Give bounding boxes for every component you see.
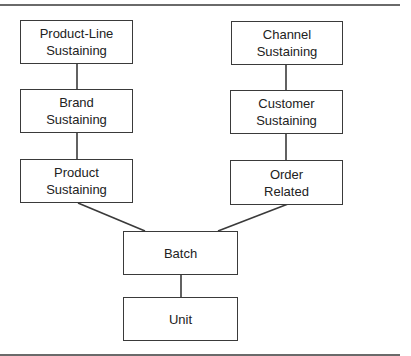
- node-product-line-sustaining: Product-Line Sustaining: [20, 20, 133, 64]
- node-label-line2: Sustaining: [46, 111, 107, 128]
- node-label-line2: Related: [264, 183, 309, 200]
- node-label-line2: Sustaining: [46, 42, 107, 59]
- node-label-line2: Sustaining: [256, 112, 317, 129]
- node-customer-sustaining: Customer Sustaining: [230, 90, 343, 134]
- edge-order-batch: [218, 204, 288, 231]
- node-channel-sustaining: Channel Sustaining: [231, 21, 343, 65]
- node-label-line1: Channel: [263, 26, 311, 43]
- node-product-sustaining: Product Sustaining: [20, 159, 133, 203]
- node-label: Batch: [164, 245, 197, 262]
- node-unit: Unit: [123, 297, 238, 341]
- node-label-line1: Brand: [59, 94, 94, 111]
- node-batch: Batch: [123, 231, 238, 275]
- node-label-line1: Product-Line: [40, 25, 114, 42]
- node-label-line1: Product: [54, 164, 99, 181]
- node-label-line1: Customer: [258, 95, 314, 112]
- node-brand-sustaining: Brand Sustaining: [20, 89, 133, 133]
- edge-product-batch: [78, 203, 145, 231]
- node-label-line1: Order: [270, 166, 303, 183]
- node-order-related: Order Related: [230, 160, 343, 205]
- node-label: Unit: [169, 311, 192, 328]
- node-label-line2: Sustaining: [46, 181, 107, 198]
- node-label-line2: Sustaining: [257, 43, 318, 60]
